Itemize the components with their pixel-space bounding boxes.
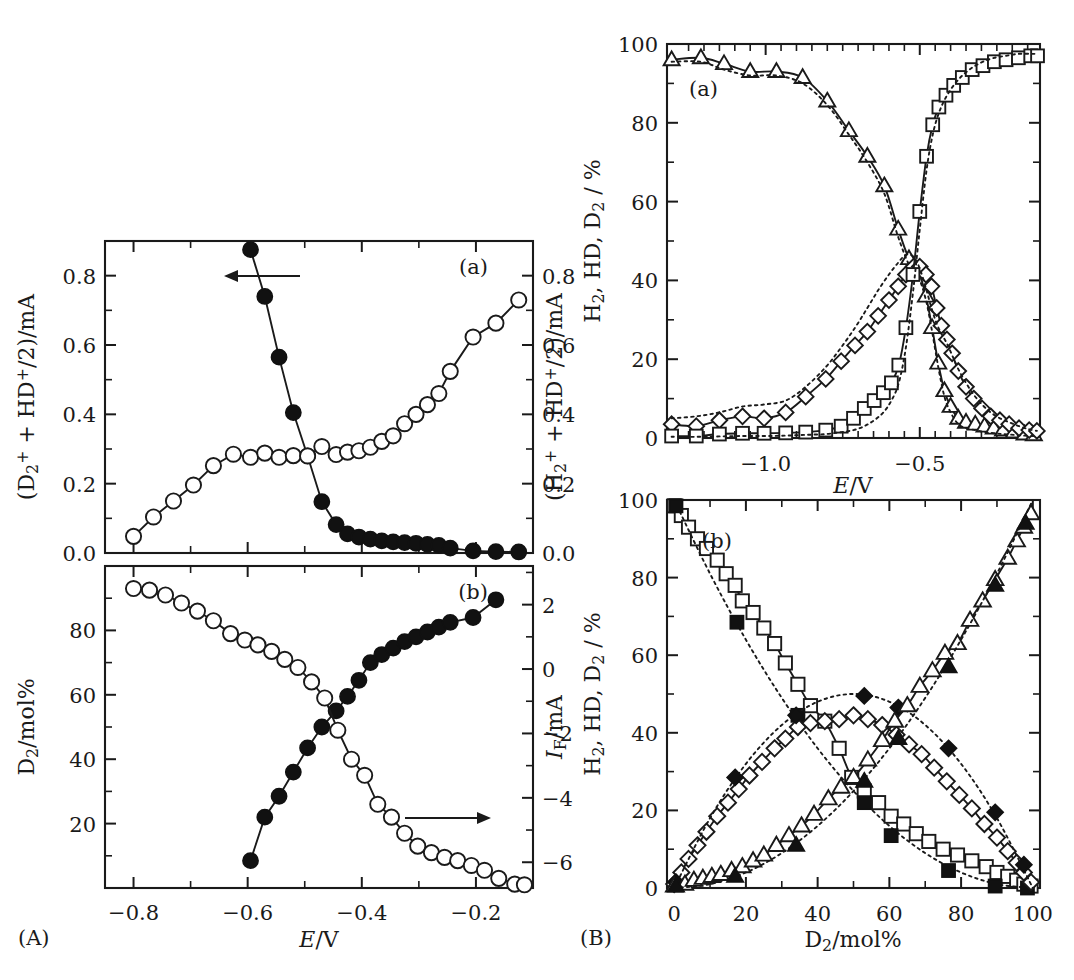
Ab-ytick: 40 (69, 748, 96, 772)
axis-title-Aa-left: (D2+ + HD+/2)/mA (13, 293, 41, 500)
Bb-ytick: 100 (618, 489, 658, 513)
Aa-ytick: 0.6 (63, 334, 96, 358)
Bb-ytick: 20 (631, 799, 658, 823)
plot-A-b: −0.8−0.6−0.4−0.220406080−6−4−202(b) (69, 566, 573, 925)
svg-text:(D2+ + HD+/2)/mA: (D2+ + HD+/2)/mA (13, 293, 41, 500)
subpanel-label-Ba: (a) (689, 77, 718, 101)
Ab-xtick: −0.2 (450, 901, 501, 925)
figure-canvas: 0.00.00.20.20.40.40.60.60.80.8(a)(D2+ + … (0, 0, 1074, 980)
left-arrow-head (224, 270, 238, 282)
Bb-xtick: 80 (948, 902, 975, 926)
Ba-xtick: −1.0 (740, 452, 791, 476)
Ab-ytick-right: 0 (542, 658, 555, 682)
Aa-ytick: 0.2 (63, 473, 96, 497)
Aa-ytick-right: 0.0 (542, 542, 575, 566)
axis-title-Ab-left: D2/mol% (14, 678, 42, 775)
Bb-ytick: 40 (631, 722, 658, 746)
Bb-xtick: 60 (876, 902, 903, 926)
axis-title-Ba-x: E/V (832, 473, 873, 498)
Bb-xtick: 100 (1013, 902, 1053, 926)
plot-B-a: −1.0−0.5020406080100(a) (618, 33, 1045, 476)
panel-label-A: (A) (18, 926, 50, 950)
Ab-ytick-right: 2 (542, 594, 555, 618)
Bb-ytick: 80 (631, 567, 658, 591)
axis-title-Bb-x: D2/mol% (804, 927, 901, 955)
axis-title-A-x: E/V (298, 927, 339, 952)
Aa-ytick: 0.4 (63, 403, 96, 427)
Bb-ytick: 60 (631, 644, 658, 668)
Ab-ytick-right: −6 (542, 851, 573, 875)
svg-text:H2, HD, D2 / %: H2, HD, D2 / % (580, 159, 608, 322)
Ba-ytick: 20 (631, 348, 658, 372)
Ba-xtick: −0.5 (894, 452, 945, 476)
plot-A-a: 0.00.00.20.20.40.40.60.60.80.8(a) (63, 241, 576, 566)
Bb-xtick: 40 (804, 902, 831, 926)
Ab-ytick: 20 (69, 813, 96, 837)
axis-title-Ba-y: H2, HD, D2 / % (580, 159, 608, 322)
Ba-ytick: 40 (631, 269, 658, 293)
axis-title-Bb-y: H2, HD, D2 / % (580, 612, 608, 775)
svg-text:H2, HD, D2 / %: H2, HD, D2 / % (580, 612, 608, 775)
svg-text:IF/mA: IF/mA (542, 694, 570, 760)
plot-B-b: 020406080100020406080100(b) (618, 489, 1053, 926)
Bb-xtick: 0 (667, 902, 680, 926)
axis-title-Ab-right: IF/mA (542, 694, 570, 760)
Ab-xtick: −0.6 (222, 901, 273, 925)
svg-text:D2/mol%: D2/mol% (14, 678, 42, 775)
subpanel-label-Ab: (b) (458, 580, 488, 604)
Ab-ytick: 80 (69, 619, 96, 643)
subpanel-label-Aa: (a) (459, 255, 488, 279)
Ba-ytick: 0 (645, 427, 658, 451)
Aa-ytick-right: 0.8 (542, 265, 575, 289)
Ab-xtick: −0.8 (108, 901, 159, 925)
Aa-ytick: 0.8 (63, 265, 96, 289)
Aa-ytick: 0.0 (63, 542, 96, 566)
svg-text:(H2+ + HD+/2)/mA: (H2+ + HD+/2)/mA (541, 292, 569, 501)
Ab-ytick-right: −4 (542, 787, 573, 811)
Ab-xtick: −0.4 (336, 901, 387, 925)
subpanel-label-Bb: (b) (702, 529, 732, 553)
Ba-ytick: 100 (618, 33, 658, 57)
right-arrow-head (477, 812, 491, 824)
Ab-ytick: 60 (69, 684, 96, 708)
scientific-figure: 0.00.00.20.20.40.40.60.60.80.8(a)(D2+ + … (0, 0, 1074, 980)
panel-label-B: (B) (580, 926, 612, 950)
axis-title-Aa-right: (H2+ + HD+/2)/mA (541, 292, 569, 501)
Ba-ytick: 80 (631, 112, 658, 136)
Bb-xtick: 20 (733, 902, 760, 926)
Ba-ytick: 60 (631, 191, 658, 215)
Bb-ytick: 0 (645, 877, 658, 901)
